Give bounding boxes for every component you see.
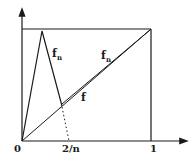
f-label: f — [81, 91, 87, 104]
two-over-n-label: 2/n — [62, 143, 81, 154]
one-label: 1 — [150, 143, 157, 154]
fn-right-subscript: n — [106, 55, 111, 64]
fn-left-subscript: n — [57, 53, 62, 62]
fn-line — [62, 30, 150, 104]
dotted-extension — [62, 107, 69, 141]
origin-label: 0 — [14, 143, 21, 154]
function-diagram: 0 2/n 1 f n f n f — [0, 0, 196, 165]
